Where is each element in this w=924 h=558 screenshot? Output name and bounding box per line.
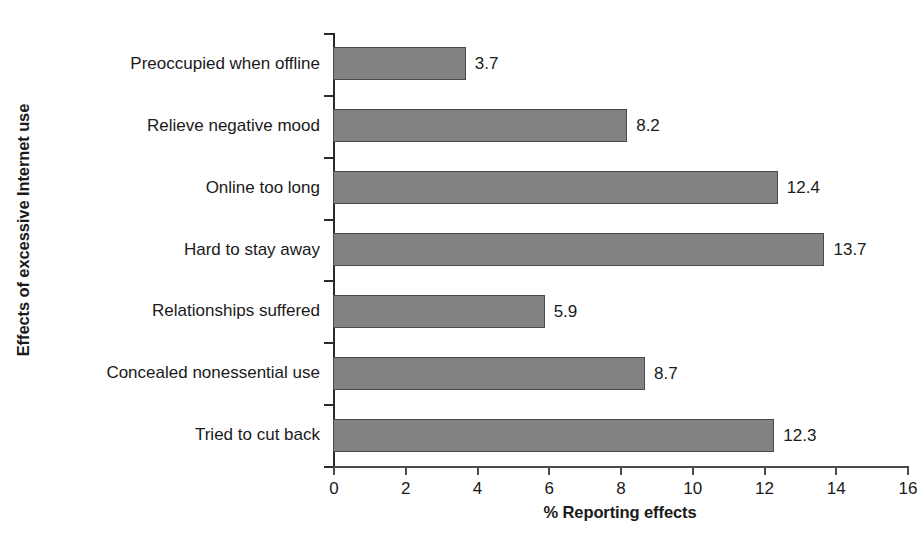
bar-value-label: 8.7 [654, 357, 678, 390]
x-axis-tick [333, 466, 335, 475]
x-axis-tick-label: 12 [735, 479, 795, 499]
y-axis-title: Effects of excessive Internet use [6, 0, 40, 460]
x-axis-tick-label: 6 [519, 479, 579, 499]
plot-area: 02468101214163.78.212.413.75.98.712.3 [333, 33, 907, 466]
x-axis-tick-label: 2 [376, 479, 436, 499]
y-axis-tick [324, 404, 333, 406]
x-axis-tick-label: 10 [663, 479, 723, 499]
bar [333, 47, 466, 80]
x-axis-tick [692, 466, 694, 475]
bar [333, 295, 545, 328]
category-label: Online too long [206, 178, 320, 198]
x-axis-tick [405, 466, 407, 475]
bar [333, 233, 824, 266]
bar [333, 171, 778, 204]
x-axis-tick-label: 16 [878, 479, 924, 499]
y-axis-tick [324, 157, 333, 159]
y-axis-tick [324, 33, 333, 35]
bar [333, 357, 645, 390]
x-axis-tick-label: 8 [591, 479, 651, 499]
x-axis-title: % Reporting effects [333, 503, 907, 522]
bar-value-label: 3.7 [475, 47, 499, 80]
category-label-column: Preoccupied when offlineRelieve negative… [40, 33, 326, 466]
y-axis-tick [324, 219, 333, 221]
bar [333, 419, 774, 452]
x-axis-tick [835, 466, 837, 475]
category-label: Relieve negative mood [147, 116, 320, 136]
category-label: Hard to stay away [184, 240, 320, 260]
y-axis-tick [324, 95, 333, 97]
y-axis-tick [324, 466, 333, 468]
bar [333, 109, 627, 142]
x-axis-tick-label: 14 [806, 479, 866, 499]
bar-chart: Effects of excessive Internet use Preocc… [0, 0, 924, 558]
x-axis-tick [764, 466, 766, 475]
bar-value-label: 8.2 [636, 109, 660, 142]
x-axis-tick-label: 0 [304, 479, 364, 499]
x-axis-tick [620, 466, 622, 475]
category-label: Preoccupied when offline [130, 54, 320, 74]
bar-value-label: 12.4 [787, 171, 820, 204]
x-axis-tick [477, 466, 479, 475]
x-axis-tick-label: 4 [448, 479, 508, 499]
category-label: Concealed nonessential use [106, 363, 320, 383]
y-axis-tick [324, 342, 333, 344]
bar-value-label: 12.3 [783, 419, 816, 452]
x-axis-tick [548, 466, 550, 475]
x-axis-tick [907, 466, 909, 475]
bar-value-label: 5.9 [554, 295, 578, 328]
category-label: Tried to cut back [195, 425, 320, 445]
bar-value-label: 13.7 [833, 233, 866, 266]
category-label: Relationships suffered [152, 301, 320, 321]
y-axis-tick [324, 280, 333, 282]
